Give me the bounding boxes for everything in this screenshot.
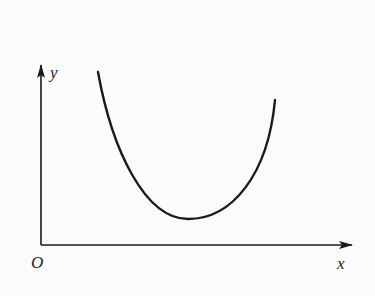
function-graph: y x O <box>0 0 375 296</box>
graph-canvas <box>0 0 375 296</box>
x-axis-label: x <box>337 255 345 272</box>
function-curve <box>98 72 275 219</box>
origin-label: O <box>31 254 43 271</box>
y-axis-label: y <box>50 64 58 81</box>
